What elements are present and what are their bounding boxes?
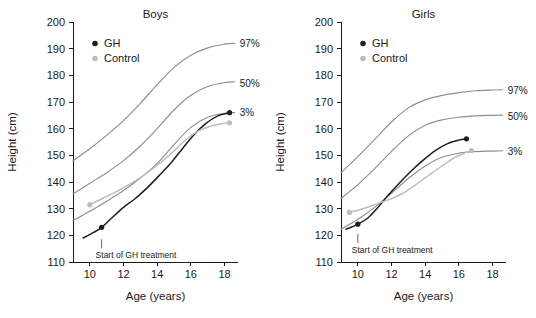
y-tick-label: 180 [47, 69, 65, 81]
y-tick-label: 130 [47, 203, 65, 215]
girls-chart-svg: Girls11012013014015016017018019020010121… [268, 0, 536, 318]
data-point-marker-control [227, 120, 232, 125]
series-line-50pct [341, 115, 503, 198]
legend-marker-gh [92, 41, 98, 47]
percentile-label-97pct: 97% [508, 85, 528, 96]
data-point-marker-gh [227, 110, 232, 115]
x-tick-label: 18 [486, 268, 498, 280]
y-tick-label: 170 [47, 96, 65, 108]
chart-panel-girls: Girls11012013014015016017018019020010121… [268, 0, 536, 318]
series-line-50pct [73, 82, 235, 194]
data-point-marker-gh [464, 136, 469, 141]
y-tick-label: 150 [47, 149, 65, 161]
y-axis-title: Height (cm) [274, 112, 286, 172]
legend-marker-control [360, 56, 366, 62]
y-tick-label: 130 [315, 203, 333, 215]
data-point-marker-gh [99, 225, 104, 230]
legend-label-gh: GH [104, 37, 121, 49]
y-tick-label: 120 [315, 229, 333, 241]
y-tick-label: 140 [315, 176, 333, 188]
x-tick-label: 14 [151, 268, 163, 280]
x-tick-label: 16 [185, 268, 197, 280]
series-line-97pct [341, 90, 503, 173]
boys-chart-svg: Boys110120130140150160170180190200101214… [0, 0, 268, 318]
legend-label-gh: GH [372, 37, 389, 49]
y-tick-label: 160 [47, 123, 65, 135]
panel-title: Girls [412, 8, 436, 20]
x-tick-label: 16 [453, 268, 465, 280]
panel-title: Boys [143, 8, 169, 20]
y-tick-label: 120 [47, 229, 65, 241]
legend-marker-control [92, 56, 98, 62]
legend-label-control: Control [372, 52, 407, 64]
percentile-label-50pct: 50% [240, 78, 260, 89]
chart-panel-boys: Boys110120130140150160170180190200101214… [0, 0, 268, 318]
y-tick-label: 190 [47, 43, 65, 55]
y-axis-title: Height (cm) [6, 112, 18, 172]
growth-chart-figure: Boys110120130140150160170180190200101214… [0, 0, 536, 318]
legend-marker-gh [360, 41, 366, 47]
series-line-3pct [341, 151, 503, 229]
data-point-marker-control [347, 210, 352, 215]
percentile-label-3pct: 3% [240, 107, 255, 118]
x-tick-label: 14 [419, 268, 431, 280]
percentile-label-3pct: 3% [508, 146, 523, 157]
x-tick-label: 10 [84, 268, 96, 280]
data-point-marker-gh [355, 222, 360, 227]
series-line-control [349, 151, 471, 213]
data-point-marker-control [469, 148, 474, 153]
x-tick-label: 10 [352, 268, 364, 280]
y-tick-label: 200 [315, 16, 333, 28]
x-axis-title: Age (years) [394, 290, 454, 302]
x-tick-label: 12 [117, 268, 129, 280]
series-line-control [90, 123, 230, 205]
y-tick-label: 110 [315, 256, 333, 268]
y-tick-label: 180 [315, 69, 333, 81]
legend-label-control: Control [104, 52, 139, 64]
x-tick-label: 18 [218, 268, 230, 280]
y-tick-label: 170 [315, 96, 333, 108]
gh-start-annotation-label: Start of GH treatment [352, 245, 433, 255]
percentile-label-97pct: 97% [240, 38, 260, 49]
y-tick-label: 160 [315, 123, 333, 135]
y-tick-label: 200 [47, 16, 65, 28]
y-tick-label: 110 [47, 256, 65, 268]
y-tick-label: 150 [315, 149, 333, 161]
gh-start-annotation-label: Start of GH treatment [96, 250, 177, 260]
x-tick-label: 12 [385, 268, 397, 280]
percentile-label-50pct: 50% [508, 111, 528, 122]
data-point-marker-control [87, 202, 92, 207]
series-line-3pct [73, 113, 235, 221]
x-axis-title: Age (years) [126, 290, 186, 302]
series-line-gh [83, 113, 229, 238]
y-tick-label: 140 [47, 176, 65, 188]
series-line-97pct [73, 43, 235, 160]
y-tick-label: 190 [315, 43, 333, 55]
